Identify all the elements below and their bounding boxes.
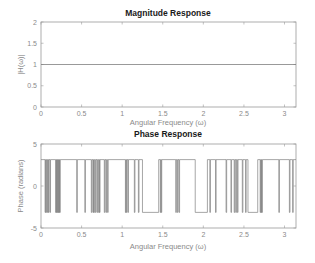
figure: Magnitude Response 00.511.522.53 00.511.… — [0, 0, 315, 263]
magnitude-title: Magnitude Response — [125, 8, 211, 18]
y-tick-label: 5 — [33, 141, 37, 148]
x-tick-label: 1 — [120, 231, 124, 238]
x-tick-label: 1.5 — [158, 231, 168, 238]
y-tick-label: -5 — [31, 225, 37, 232]
y-tick-label: 0.5 — [27, 82, 37, 89]
magnitude-ylabel: |H(ω)| — [16, 54, 25, 74]
y-tick-label: 0 — [33, 104, 37, 111]
x-tick-label: 2 — [201, 110, 205, 117]
y-tick-label: 1.5 — [27, 40, 37, 47]
x-tick-label: 0 — [39, 110, 43, 117]
phase-plot: Phase Response 00.511.522.53 -505 Angula… — [16, 129, 296, 251]
y-tick-label: 1 — [33, 61, 37, 68]
phase-title: Phase Response — [134, 129, 202, 139]
x-tick-label: 2 — [201, 231, 205, 238]
magnitude-xlabel: Angular Frequency (ω) — [130, 118, 207, 127]
x-tick-label: 1.5 — [158, 110, 168, 117]
y-tick-label: 2 — [33, 19, 37, 26]
x-tick-label: 2.5 — [239, 231, 249, 238]
x-tick-label: 0.5 — [77, 110, 87, 117]
phase-xlabel: Angular Frequency (ω) — [130, 242, 207, 251]
x-tick-label: 1 — [120, 110, 124, 117]
x-tick-label: 0 — [39, 231, 43, 238]
x-tick-label: 0.5 — [77, 231, 87, 238]
x-tick-label: 3 — [283, 231, 287, 238]
x-tick-label: 2.5 — [239, 110, 249, 117]
x-tick-label: 3 — [283, 110, 287, 117]
phase-ylabel: Phase (radians) — [16, 159, 25, 212]
magnitude-plot: Magnitude Response 00.511.522.53 00.511.… — [16, 8, 296, 127]
y-tick-label: 0 — [33, 183, 37, 190]
